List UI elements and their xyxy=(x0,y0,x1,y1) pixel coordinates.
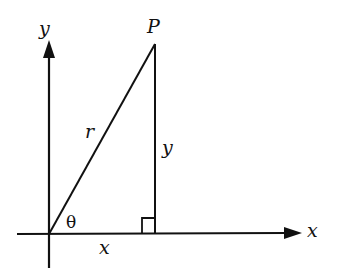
y-axis-label: y xyxy=(38,17,50,39)
angle-theta-label: θ xyxy=(66,212,76,232)
hypotenuse-label: r xyxy=(85,120,96,142)
hypotenuse-r xyxy=(49,44,155,234)
adjacent-label: x xyxy=(99,236,110,258)
right-angle-marker xyxy=(142,218,155,233)
point-p-label: P xyxy=(146,15,161,37)
opposite-label: y xyxy=(161,136,173,158)
x-axis-arrow-icon xyxy=(284,227,302,239)
y-axis-arrow-icon xyxy=(43,40,55,58)
x-axis-label: x xyxy=(307,219,318,241)
x-axis xyxy=(17,233,285,234)
polar-triangle-diagram: y P r y θ x x xyxy=(0,0,339,268)
